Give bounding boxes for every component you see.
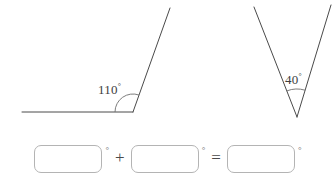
answer-slot-2: ° (131, 145, 206, 173)
right-angle-measure-label: 40° (285, 73, 302, 86)
right-angle-left-ray (254, 7, 297, 117)
answer-input-3[interactable] (227, 145, 295, 173)
angle-sum-equation-row: ° + ° = ° (0, 133, 336, 184)
degree-symbol-icon: ° (118, 82, 121, 91)
answer-slot-3: ° (227, 145, 302, 173)
plus-operator: + (115, 149, 125, 168)
right-angle-measure-value: 40 (285, 72, 298, 87)
answer-input-1[interactable] (34, 145, 102, 173)
degree-symbol-icon-2: ° (202, 146, 206, 155)
left-angle-slanted-ray (133, 8, 170, 112)
degree-symbol-icon-3: ° (298, 146, 302, 155)
right-angle-figure (254, 5, 331, 117)
degree-symbol-icon-1: ° (105, 146, 109, 155)
right-angle-right-ray (297, 5, 331, 117)
answer-slot-1: ° (34, 145, 109, 173)
angle-figures-svg (0, 0, 336, 132)
left-angle-measure-label: 110° (98, 83, 121, 96)
left-angle-arc (115, 94, 139, 112)
answer-input-2[interactable] (131, 145, 199, 173)
equals-operator: = (211, 149, 221, 168)
left-angle-measure-value: 110 (98, 82, 118, 97)
angle-figures-area: 110° 40° (0, 0, 336, 132)
left-angle-figure (22, 8, 170, 112)
worksheet-canvas: 110° 40° ° + ° = ° (0, 0, 336, 184)
right-angle-arc (287, 89, 305, 91)
degree-symbol-icon: ° (298, 72, 301, 81)
